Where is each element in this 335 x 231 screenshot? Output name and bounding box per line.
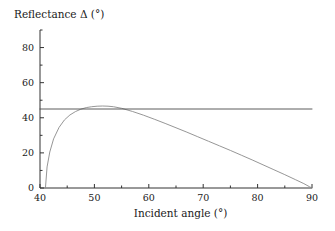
y-tick-group: 020406080 — [22, 30, 44, 193]
data-series-group — [40, 106, 312, 188]
x-axis-title-text: Incident angle (°) — [108, 207, 228, 219]
x-tick-label: 90 — [306, 192, 318, 203]
series-line — [45, 106, 312, 188]
y-tick-label: 80 — [22, 42, 34, 53]
x-tick-group: 405060708090 — [34, 184, 318, 203]
x-axis-title: Incident angle (°) — [0, 207, 335, 219]
x-tick-label: 80 — [252, 192, 264, 203]
x-tick-label: 70 — [197, 192, 209, 203]
y-tick-label: 40 — [22, 112, 34, 123]
x-tick-label: 50 — [88, 192, 100, 203]
y-tick-label: 60 — [22, 77, 34, 88]
x-tick-label: 60 — [143, 192, 155, 203]
chart-canvas: 020406080 405060708090 — [0, 0, 335, 231]
reflectance-phase-chart: Reflectance Δ (°) 020406080 405060708090… — [0, 0, 335, 231]
x-tick-label: 40 — [34, 192, 46, 203]
y-tick-label: 20 — [22, 147, 34, 158]
